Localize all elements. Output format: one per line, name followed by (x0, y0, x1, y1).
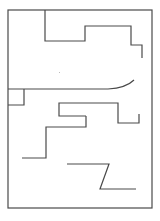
z-wall (67, 164, 136, 189)
floor-plan-diagram (0, 0, 160, 221)
top-step-wall (45, 10, 142, 58)
floor-plan-svg (0, 0, 160, 221)
middle-step-wall (59, 103, 139, 123)
speck (59, 72, 60, 73)
lower-step-wall (22, 116, 86, 158)
small-corner-box (8, 89, 24, 105)
curved-corridor-wall (8, 80, 134, 89)
